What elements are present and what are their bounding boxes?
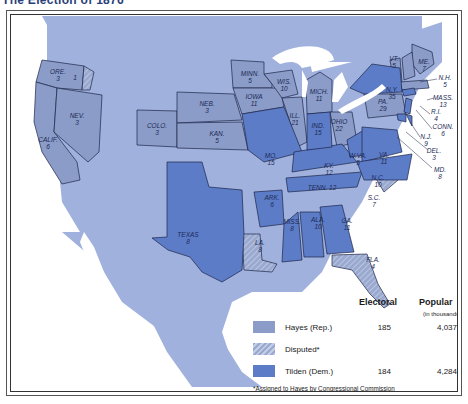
- map-title: The Election of 1876: [2, 0, 124, 7]
- hayes-popular: 4,037: [425, 323, 457, 332]
- svg-text:22: 22: [334, 125, 343, 132]
- tilden-electoral: 184: [367, 367, 391, 376]
- col-popular-header: Popular: [419, 297, 453, 307]
- disputed-label: Disputed*: [285, 345, 320, 354]
- svg-text:LA.: LA.: [255, 239, 265, 246]
- svg-text:5: 5: [392, 62, 396, 69]
- svg-text:8: 8: [258, 246, 262, 253]
- svg-text:1: 1: [73, 74, 77, 81]
- svg-text:PA.: PA.: [378, 98, 388, 105]
- svg-text:MICH.: MICH.: [310, 88, 329, 95]
- hayes-electoral: 185: [367, 323, 391, 332]
- svg-text:3: 3: [432, 154, 436, 161]
- col-electoral-header: Electoral: [359, 297, 397, 307]
- svg-text:CONN.: CONN.: [433, 123, 454, 130]
- svg-text:ALA.: ALA.: [310, 216, 325, 223]
- svg-text:MINN.: MINN.: [241, 70, 260, 77]
- svg-text:TEXAS: TEXAS: [177, 231, 199, 238]
- svg-text:R.I.: R.I.: [431, 108, 441, 115]
- svg-text:GA.: GA.: [341, 217, 352, 224]
- svg-text:IOWA: IOWA: [245, 93, 262, 100]
- tilden-label: Tilden (Dem.): [285, 367, 333, 376]
- svg-text:15: 15: [314, 129, 322, 136]
- svg-text:FLA.: FLA.: [366, 256, 380, 263]
- svg-text:5: 5: [356, 159, 360, 166]
- legend: Electoral Popular (in thousands) Hayes (…: [249, 297, 458, 392]
- svg-text:W.VA.: W.VA.: [349, 152, 367, 159]
- svg-text:3: 3: [56, 75, 60, 82]
- svg-text:11: 11: [381, 158, 388, 165]
- map-frame: ORE.31 CALIF.6 NEV.3 COLO.3 NEB.3 KAN.5 …: [6, 10, 462, 396]
- svg-text:11: 11: [316, 95, 323, 102]
- svg-text:N.C.: N.C.: [372, 174, 385, 181]
- svg-text:5: 5: [215, 137, 219, 144]
- hayes-label: Hayes (Rep.): [285, 323, 332, 332]
- svg-text:10: 10: [374, 181, 382, 188]
- svg-text:3: 3: [75, 119, 79, 126]
- svg-text:COLO.: COLO.: [147, 122, 167, 129]
- svg-text:11: 11: [251, 100, 258, 107]
- svg-text:WIS.: WIS.: [277, 78, 291, 85]
- svg-text:N.H.: N.H.: [439, 74, 452, 81]
- svg-text:OHIO: OHIO: [331, 118, 348, 125]
- popular-unit: (in thousands): [423, 311, 458, 317]
- svg-text:KAN.: KAN.: [209, 130, 224, 137]
- svg-text:8: 8: [290, 225, 294, 232]
- svg-text:N.J.: N.J.: [420, 133, 432, 140]
- svg-text:ARK.: ARK.: [263, 194, 279, 201]
- svg-text:10: 10: [280, 85, 288, 92]
- tilden-popular: 4,284: [425, 367, 457, 376]
- svg-text:TENN. 12: TENN. 12: [308, 184, 337, 191]
- svg-text:ILL.: ILL.: [290, 112, 301, 119]
- svg-text:5: 5: [248, 77, 252, 84]
- svg-text:8: 8: [438, 173, 442, 180]
- svg-text:VT.: VT.: [389, 55, 399, 62]
- svg-text:N.Y.: N.Y.: [386, 86, 398, 93]
- svg-text:MASS.: MASS.: [433, 94, 453, 101]
- svg-text:6: 6: [441, 130, 445, 137]
- svg-text:3: 3: [155, 129, 159, 136]
- svg-text:MD.: MD.: [434, 166, 446, 173]
- disputed-swatch: [253, 343, 275, 355]
- svg-text:11: 11: [344, 224, 351, 231]
- svg-text:NEB.: NEB.: [199, 100, 214, 107]
- svg-text:15: 15: [267, 159, 275, 166]
- svg-text:9: 9: [424, 140, 428, 147]
- svg-text:10: 10: [314, 223, 322, 230]
- svg-text:ME.: ME.: [418, 58, 430, 65]
- svg-text:13: 13: [439, 101, 447, 108]
- svg-text:7: 7: [372, 201, 376, 208]
- svg-text:29: 29: [378, 105, 387, 112]
- map-area: ORE.31 CALIF.6 NEV.3 COLO.3 NEB.3 KAN.5 …: [10, 14, 458, 392]
- svg-text:6: 6: [270, 201, 274, 208]
- svg-text:7: 7: [422, 65, 426, 72]
- svg-text:ORE.: ORE.: [50, 68, 66, 75]
- svg-text:5: 5: [443, 81, 447, 88]
- legend-footnote: *Assigned to Hayes by Congressional Comm…: [253, 385, 395, 392]
- svg-text:6: 6: [46, 143, 50, 150]
- svg-text:S.C.: S.C.: [368, 194, 381, 201]
- svg-text:3: 3: [205, 107, 209, 114]
- svg-text:DEL.: DEL.: [427, 147, 442, 154]
- svg-text:CALIF.: CALIF.: [38, 136, 58, 143]
- svg-text:VA.: VA.: [379, 151, 389, 158]
- svg-text:MO.: MO.: [265, 152, 277, 159]
- svg-text:IND.: IND.: [312, 122, 325, 129]
- svg-text:12: 12: [325, 169, 333, 176]
- svg-text:21: 21: [290, 119, 299, 126]
- svg-text:35: 35: [388, 93, 396, 100]
- svg-text:4: 4: [434, 115, 438, 122]
- svg-text:KY.: KY.: [324, 162, 334, 169]
- svg-text:NEV.: NEV.: [70, 112, 85, 119]
- tilden-swatch: [253, 365, 275, 377]
- svg-text:8: 8: [186, 238, 190, 245]
- hayes-swatch: [253, 321, 275, 333]
- svg-text:MISS.: MISS.: [283, 218, 301, 225]
- svg-text:4: 4: [371, 263, 375, 270]
